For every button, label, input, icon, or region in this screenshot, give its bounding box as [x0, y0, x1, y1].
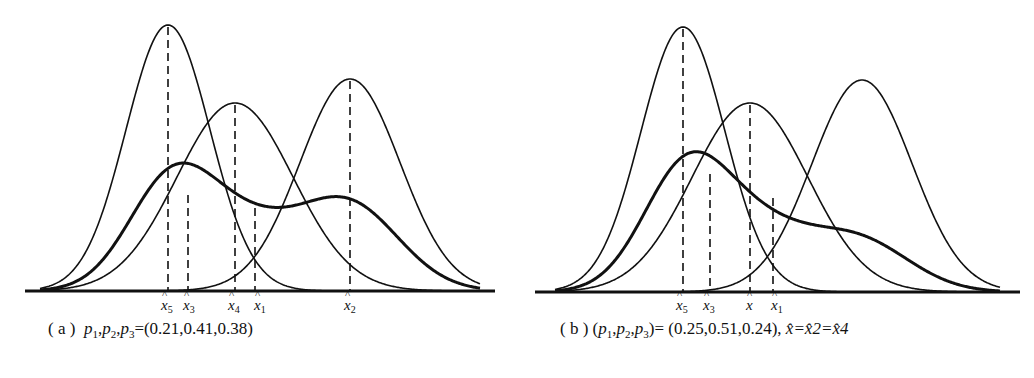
panel-b-plot: [535, 27, 1020, 292]
marker-label-a-x3: ^x3: [183, 298, 195, 315]
marker-label-a-x1: ^x1: [254, 298, 266, 315]
caption-a-values: =(0.21,0.41,0.38): [134, 319, 253, 338]
panel-a-plot: [25, 25, 495, 291]
marker-label-a-x5: ^x5: [161, 298, 173, 315]
marker-label-b-xhat: ^x: [746, 298, 753, 313]
marker-label-b-x5: ^x5: [676, 298, 688, 315]
component-curve-b-3: [555, 80, 1000, 292]
caption-a-prefix: ( a ): [48, 319, 75, 338]
marker-label-a-x2: ^x2: [344, 298, 356, 315]
caption-b-equality: x̂=x̂2=x̂4: [786, 319, 849, 338]
marker-label-b-x1: ^x1: [771, 298, 783, 315]
caption-b: ( b ) (p1,p2,p3)= (0.25,0.51,0.24), x̂=x…: [560, 320, 848, 340]
component-curve-b-2: [555, 103, 1000, 292]
caption-b-prefix: ( b ): [560, 319, 588, 338]
component-curve-a-3: [40, 79, 480, 291]
marker-label-a-x4: ^x4: [228, 298, 240, 315]
component-curve-a-1: [40, 25, 480, 291]
mixture-curve-a: [40, 163, 480, 290]
caption-a: ( a ) p1,p2,p3=(0.21,0.41,0.38): [48, 320, 253, 340]
marker-label-b-x3: ^x3: [703, 298, 715, 315]
caption-b-values: = (0.25,0.51,0.24),: [654, 319, 785, 338]
